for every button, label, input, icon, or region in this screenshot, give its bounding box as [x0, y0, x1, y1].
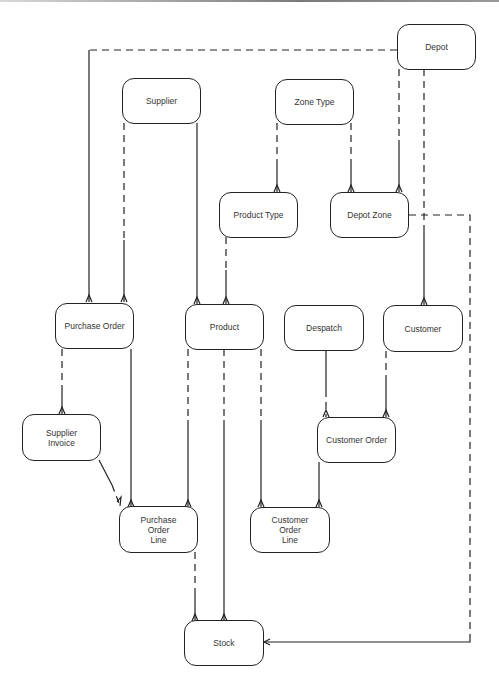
entity-label: Purchase Order Line: [139, 515, 179, 545]
entity-despatch[interactable]: Despatch: [284, 305, 364, 351]
entity-customer-order[interactable]: Customer Order: [317, 417, 396, 463]
entity-supplier-invoice[interactable]: Supplier Invoice: [22, 414, 101, 461]
entity-label: Customer: [405, 324, 442, 334]
entity-product-type[interactable]: Product Type: [219, 192, 298, 238]
entity-label: Stock: [213, 638, 234, 648]
entity-purchase-order-line[interactable]: Purchase Order Line: [119, 506, 198, 553]
entity-label: Product: [210, 322, 239, 332]
entity-label: Zone Type: [294, 97, 334, 107]
entity-label: Product Type: [234, 210, 284, 220]
entity-label: Customer Order Line: [270, 515, 310, 545]
entity-label: Customer Order: [326, 435, 387, 445]
entity-product[interactable]: Product: [185, 304, 264, 350]
entity-label: Supplier Invoice: [39, 428, 85, 448]
entity-label: Depot Zone: [347, 210, 391, 220]
entity-label: Purchase Order: [65, 321, 125, 331]
entity-depot-zone[interactable]: Depot Zone: [330, 192, 409, 238]
entity-label: Despatch: [306, 323, 342, 333]
entity-zone-type[interactable]: Zone Type: [275, 79, 354, 125]
entity-purchase-order[interactable]: Purchase Order: [55, 303, 134, 349]
entity-customer-order-line[interactable]: Customer Order Line: [250, 507, 330, 553]
entity-label: Depot: [425, 42, 448, 52]
entity-label: Supplier: [146, 96, 177, 106]
entity-stock[interactable]: Stock: [184, 620, 264, 666]
entity-depot[interactable]: Depot: [397, 24, 476, 70]
entity-customer[interactable]: Customer: [383, 305, 463, 352]
entity-supplier[interactable]: Supplier: [122, 78, 201, 124]
